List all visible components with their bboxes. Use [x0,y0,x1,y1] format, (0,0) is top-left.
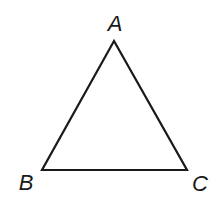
triangle-diagram: A B C [0,0,221,205]
vertex-label-b: B [19,170,34,195]
vertex-label-c: C [192,171,208,196]
diagram-svg: A B C [0,0,221,205]
triangle-abc [42,41,187,170]
vertex-label-a: A [106,11,123,36]
